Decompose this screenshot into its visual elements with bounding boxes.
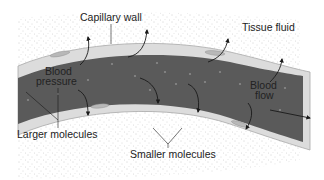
tissue-fluid-label: Tissue fluid bbox=[242, 21, 295, 33]
capillary-diagram: Capillary wall Tissue fluid Blood pressu… bbox=[0, 0, 324, 180]
smaller-molecules-label: Smaller molecules bbox=[130, 148, 216, 160]
blood-flow-label-line2: flow bbox=[255, 89, 274, 101]
larger-molecules-label: Larger molecules bbox=[17, 128, 98, 140]
capillary-wall-label: Capillary wall bbox=[80, 11, 142, 23]
blood-pressure-label-line2: pressure bbox=[36, 75, 77, 87]
